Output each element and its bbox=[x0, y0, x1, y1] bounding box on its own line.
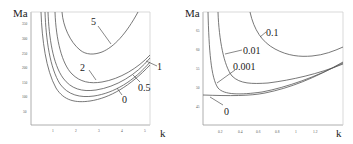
left-xtick: 5 bbox=[144, 129, 146, 133]
left-ytick: 350 bbox=[22, 22, 28, 26]
right-ytick: 60 bbox=[196, 48, 200, 52]
right-curve-label-0.01: 0.01 bbox=[243, 45, 261, 56]
right-curve-0.1 bbox=[250, 12, 343, 56]
right-xtick: 1.2 bbox=[313, 130, 318, 134]
right-leader-0 bbox=[210, 97, 223, 105]
right-leader-0.01 bbox=[225, 50, 242, 54]
left-curve-label-0.5: 0.5 bbox=[138, 82, 151, 93]
left-ytick: 300 bbox=[22, 37, 28, 41]
right-ytick: 50 bbox=[196, 86, 200, 90]
left-curve-0.5 bbox=[45, 12, 150, 97]
right-x-axis-label: k bbox=[336, 127, 342, 139]
right-chart: Ma k 65 60 55 50 45 0.2 0.4 0.6 0.8 1 1.… bbox=[185, 7, 343, 139]
left-ytick: 100 bbox=[22, 95, 28, 99]
left-curve-5 bbox=[62, 12, 138, 54]
left-chart: Ma k 350 300 250 200 150 100 50 1 2 3 4 … bbox=[13, 7, 166, 139]
right-xtick: 1 bbox=[295, 130, 297, 134]
right-ytick: 55 bbox=[196, 67, 200, 71]
left-ytick: 200 bbox=[22, 66, 28, 70]
left-curve-label-5: 5 bbox=[91, 16, 96, 27]
left-leader-2 bbox=[89, 70, 96, 80]
left-ytick: 250 bbox=[22, 52, 28, 56]
right-ytick: 65 bbox=[196, 29, 200, 33]
right-xtick: 0.4 bbox=[238, 130, 243, 134]
left-xtick: 2 bbox=[75, 129, 77, 133]
left-curve-label-1: 1 bbox=[157, 61, 162, 72]
left-ytick: 150 bbox=[22, 81, 28, 85]
left-leader-5 bbox=[98, 26, 111, 44]
left-x-axis-label: k bbox=[160, 127, 166, 139]
left-y-axis-label: Ma bbox=[13, 7, 28, 19]
left-ytick: 50 bbox=[23, 110, 27, 114]
right-curve-label-0.001: 0.001 bbox=[233, 61, 256, 72]
left-xtick: 1 bbox=[52, 129, 54, 133]
right-curve-label-0: 0 bbox=[224, 106, 229, 117]
right-ytick: 45 bbox=[196, 105, 200, 109]
right-xtick: 0.2 bbox=[218, 130, 223, 134]
right-curve-0.01 bbox=[218, 12, 343, 83]
right-curve-0 bbox=[203, 62, 343, 96]
left-xtick: 4 bbox=[121, 129, 123, 133]
right-xtick: 0.8 bbox=[275, 130, 280, 134]
left-xtick: 3 bbox=[98, 129, 100, 133]
right-xtick: 0.6 bbox=[256, 130, 261, 134]
figure-canvas: Ma k 350 300 250 200 150 100 50 1 2 3 4 … bbox=[0, 0, 353, 144]
left-curve-label-2: 2 bbox=[80, 62, 85, 73]
left-curve-1 bbox=[48, 12, 150, 91]
right-y-axis-label: Ma bbox=[185, 7, 200, 19]
left-curve-label-0: 0 bbox=[122, 94, 127, 105]
right-curve-label-0.1: 0.1 bbox=[266, 27, 279, 38]
